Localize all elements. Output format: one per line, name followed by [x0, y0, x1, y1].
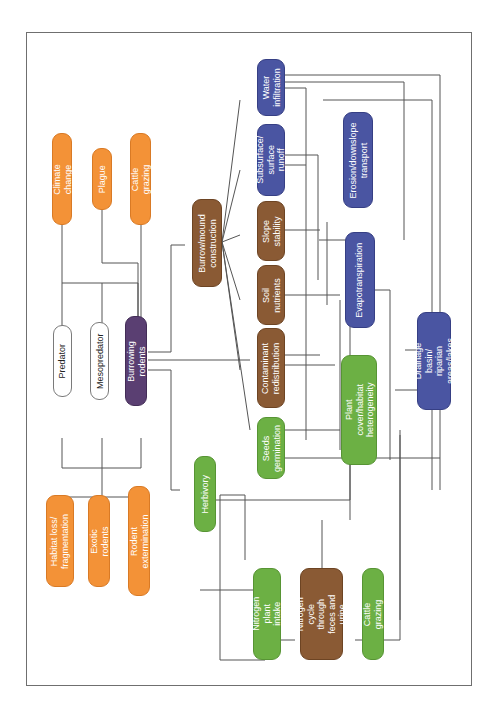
- node-label: Burrowing rodents: [126, 341, 147, 382]
- node-label: Mesopredator: [94, 333, 105, 389]
- node-label: Exotic rodents: [89, 526, 110, 556]
- node-label: Herbivory: [200, 475, 211, 514]
- node-label: Evapotranspiration: [355, 242, 366, 317]
- node-drainage-basin: Drainage basin/ riparian areas/lakes: [417, 312, 451, 410]
- node-burrow-mound: Burrow/mound construction: [192, 199, 222, 287]
- node-nitrogen-cycle: Nitrogen cycle through feces and urine: [300, 568, 343, 660]
- node-label: Cattle grazing: [363, 599, 384, 629]
- node-label: Erosion/downslope transport: [348, 122, 369, 198]
- node-burrowing-rodents: Burrowing rodents: [125, 316, 147, 406]
- node-label: Slope stability: [261, 216, 282, 246]
- node-evapotranspiration: Evapotranspiration: [345, 232, 375, 328]
- node-slope-stability: Slope stability: [257, 201, 285, 261]
- node-label: Subsurface/ surface runoff: [255, 136, 287, 184]
- node-label: Climate change: [52, 164, 73, 195]
- node-contaminant-redistribution: Contaminant redistribution: [257, 328, 285, 408]
- node-cattle-grazing-top: Cattle grazing: [130, 133, 151, 225]
- node-label: Nitrogen plant intake: [251, 597, 283, 631]
- node-climate-change: Climate change: [52, 133, 72, 225]
- node-label: Contaminant redistribution: [261, 342, 282, 394]
- node-label: Rodent extermination: [129, 514, 150, 568]
- node-erosion: Erosion/downslope transport: [343, 112, 373, 208]
- node-water-infiltration: Water infiltration: [257, 59, 285, 116]
- node-mesopredator: Mesopredator: [90, 322, 109, 400]
- node-nitrogen-intake: Nitrogen plant intake: [253, 568, 281, 660]
- node-soil-nutrients: Soil nutrients: [257, 265, 285, 325]
- node-label: Nitrogen cycle through feces and urine: [295, 594, 348, 635]
- node-label: Soil nutrients: [261, 278, 282, 313]
- node-rodent-extermination: Rodent extermination: [128, 486, 150, 596]
- node-seeds-germination: Seeds germination: [257, 417, 285, 479]
- node-predator: Predator: [53, 325, 72, 397]
- node-label: Seeds germination: [261, 424, 282, 471]
- node-subsurface-runoff: Subsurface/ surface runoff: [257, 124, 285, 196]
- node-habitat-loss: Habitat loss/ fragmentation: [46, 495, 74, 587]
- node-label: Plague: [97, 165, 108, 193]
- node-label: Cattle grazing: [130, 164, 151, 194]
- node-label: Burrow/mound construction: [197, 214, 218, 273]
- node-label: Predator: [57, 344, 68, 379]
- node-label: Drainage basin/ riparian areas/lakes: [413, 338, 455, 384]
- node-label: Habitat loss/ fragmentation: [50, 513, 71, 568]
- node-plant-cover: Plant cover/habitat heterogeneity: [341, 355, 377, 465]
- node-label: Water infiltration: [261, 68, 282, 107]
- node-label: Plant cover/habitat heterogeneity: [343, 383, 375, 438]
- node-cattle-grazing-bottom: Cattle grazing: [362, 568, 384, 660]
- node-plague: Plague: [92, 148, 112, 210]
- node-exotic-rodents: Exotic rodents: [88, 495, 110, 587]
- node-herbivory: Herbivory: [194, 456, 216, 532]
